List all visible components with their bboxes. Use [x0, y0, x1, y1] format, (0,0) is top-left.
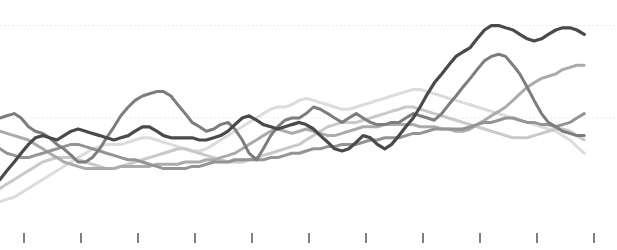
line-series_1 [0, 26, 584, 180]
x-axis-ticks-group [24, 233, 594, 243]
gridlines-group [0, 26, 617, 118]
chart-plot-area [0, 0, 617, 250]
series-group [0, 26, 584, 202]
line-chart [0, 0, 617, 250]
